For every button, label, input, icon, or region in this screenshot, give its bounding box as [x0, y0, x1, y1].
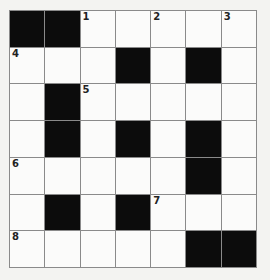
grid-cell[interactable]	[222, 84, 256, 120]
grid-cell[interactable]	[116, 158, 150, 194]
grid-cell[interactable]	[81, 121, 115, 157]
grid-cell[interactable]: 3	[222, 11, 256, 47]
black-cell	[45, 11, 79, 47]
black-cell	[186, 158, 220, 194]
grid-cell[interactable]	[10, 195, 44, 231]
grid-cell[interactable]: 8	[10, 231, 44, 267]
grid-cell[interactable]	[151, 121, 185, 157]
grid-cell[interactable]	[81, 231, 115, 267]
grid-cell[interactable]	[10, 121, 44, 157]
black-cell	[45, 84, 79, 120]
black-cell	[116, 121, 150, 157]
grid-cell[interactable]	[222, 48, 256, 84]
clue-number: 3	[224, 12, 231, 22]
black-cell	[222, 231, 256, 267]
clue-number: 2	[153, 12, 160, 22]
grid-cell[interactable]	[81, 158, 115, 194]
black-cell	[10, 11, 44, 47]
grid-cell[interactable]	[45, 158, 79, 194]
grid-cell[interactable]: 7	[151, 195, 185, 231]
black-cell	[45, 121, 79, 157]
black-cell	[186, 48, 220, 84]
black-cell	[45, 195, 79, 231]
grid-cell[interactable]	[81, 48, 115, 84]
clue-number: 5	[83, 85, 90, 95]
grid-cell[interactable]	[116, 84, 150, 120]
grid-cell[interactable]	[116, 231, 150, 267]
black-cell	[116, 48, 150, 84]
grid-cell[interactable]	[10, 84, 44, 120]
grid-cell[interactable]	[222, 121, 256, 157]
grid-cell[interactable]	[222, 195, 256, 231]
grid-cell[interactable]: 5	[81, 84, 115, 120]
clue-number: 4	[12, 49, 19, 59]
grid-cell[interactable]	[186, 11, 220, 47]
black-cell	[186, 121, 220, 157]
grid-cell[interactable]	[151, 231, 185, 267]
grid-cell[interactable]: 4	[10, 48, 44, 84]
grid-cell[interactable]	[116, 11, 150, 47]
grid-cell[interactable]	[186, 84, 220, 120]
clue-number: 8	[12, 232, 19, 242]
clue-number: 6	[12, 159, 19, 169]
clue-number: 1	[83, 12, 90, 22]
grid-cell[interactable]	[81, 195, 115, 231]
grid-cell[interactable]	[186, 195, 220, 231]
grid-cell[interactable]: 6	[10, 158, 44, 194]
grid-cell[interactable]	[45, 231, 79, 267]
grid-cell[interactable]	[222, 158, 256, 194]
crossword-grid: 12345678	[9, 10, 257, 268]
grid-cell[interactable]	[45, 48, 79, 84]
clue-number: 7	[153, 196, 160, 206]
grid-cell[interactable]	[151, 48, 185, 84]
grid-cell[interactable]	[151, 84, 185, 120]
black-cell	[186, 231, 220, 267]
grid-cell[interactable]: 1	[81, 11, 115, 47]
black-cell	[116, 195, 150, 231]
grid-cell[interactable]	[151, 158, 185, 194]
grid-cell[interactable]: 2	[151, 11, 185, 47]
